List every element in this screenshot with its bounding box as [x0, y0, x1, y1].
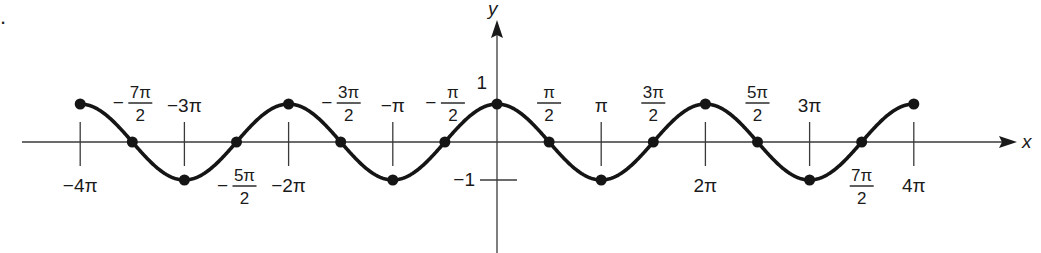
- data-point: [439, 137, 450, 148]
- x-tick-label-numerator: 5π: [234, 166, 255, 185]
- x-tick-label-numerator: 7π: [851, 166, 872, 185]
- data-point: [544, 137, 555, 148]
- x-tick-label: 3π: [798, 95, 822, 116]
- x-tick-label-sign: −: [217, 175, 228, 196]
- x-tick-label: 2π: [694, 175, 718, 196]
- x-tick-label: −3π: [167, 95, 202, 116]
- x-tick-label-denominator: 2: [344, 106, 353, 125]
- cosine-graph: . −4π−7π2−3π−5π2−2π−3π2−π−π2π2π3π22π5π23…: [0, 0, 1041, 253]
- y-tick-label: 1: [476, 72, 487, 93]
- x-tick-label-denominator: 2: [136, 106, 145, 125]
- data-point: [856, 137, 867, 148]
- x-tick-label: −4π: [63, 175, 98, 196]
- x-tick-label-numerator: π: [543, 83, 555, 102]
- x-tick-label-numerator: 5π: [747, 83, 768, 102]
- x-tick-label-denominator: 2: [448, 106, 457, 125]
- tick-labels: −4π−7π2−3π−5π2−2π−3π2−π−π2π2π3π22π5π23π7…: [63, 72, 926, 208]
- data-point: [648, 137, 659, 148]
- x-axis-label: x: [1021, 131, 1033, 152]
- x-tick-label-denominator: 2: [857, 189, 866, 208]
- data-point: [335, 137, 346, 148]
- data-point: [596, 175, 607, 186]
- data-point: [283, 99, 294, 110]
- x-tick-label: π: [595, 95, 608, 116]
- data-point: [752, 137, 763, 148]
- x-tick-label-numerator: π: [447, 83, 459, 102]
- y-tick-label: −1: [453, 169, 475, 190]
- x-tick-label-denominator: 2: [240, 189, 249, 208]
- data-point: [127, 137, 138, 148]
- x-tick-label-denominator: 2: [544, 106, 553, 125]
- data-point: [231, 137, 242, 148]
- x-tick-label-numerator: 7π: [130, 83, 151, 102]
- data-point: [700, 99, 711, 110]
- data-point: [492, 99, 503, 110]
- x-tick-label-sign: −: [113, 92, 124, 113]
- x-tick-label-sign: −: [321, 92, 332, 113]
- x-tick-label: 4π: [902, 175, 926, 196]
- x-tick-label-denominator: 2: [753, 106, 762, 125]
- data-point: [387, 175, 398, 186]
- data-point: [179, 175, 190, 186]
- x-tick-label-numerator: 3π: [643, 83, 664, 102]
- data-point: [804, 175, 815, 186]
- data-point: [75, 99, 86, 110]
- x-tick-label-sign: −: [425, 92, 436, 113]
- problem-number: .: [0, 4, 6, 29]
- x-tick-label: −π: [381, 95, 405, 116]
- x-tick-label: −2π: [271, 175, 306, 196]
- y-axis-label: y: [486, 0, 499, 19]
- x-tick-label-numerator: 3π: [338, 83, 359, 102]
- x-tick-label-denominator: 2: [649, 106, 658, 125]
- data-point: [908, 99, 919, 110]
